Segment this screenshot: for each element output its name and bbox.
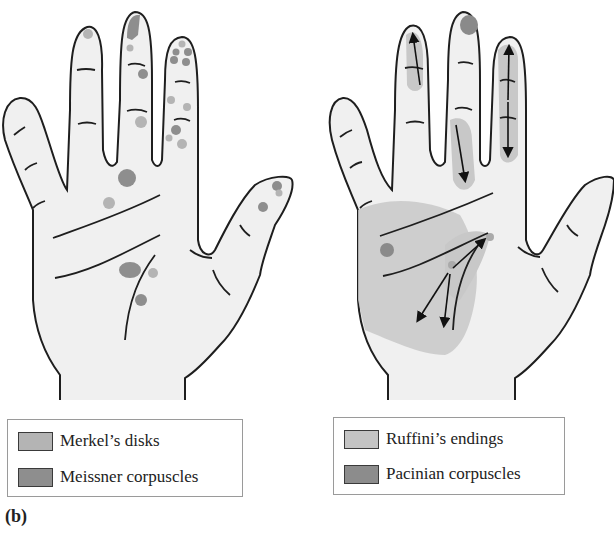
legend-item-meissner: Meissner corpuscles	[18, 467, 198, 487]
legend-item-ruffini: Ruffini’s endings	[344, 429, 503, 449]
hand-diagram-ruffini-pacinian	[310, 0, 614, 400]
legend-label: Pacinian corpuscles	[386, 464, 521, 484]
legend-item-merkel: Merkel’s disks	[18, 431, 160, 451]
legend-label: Merkel’s disks	[60, 431, 160, 451]
merkel-swatch-icon	[18, 432, 53, 451]
legend-item-pacinian: Pacinian corpuscles	[344, 464, 521, 484]
pacinian-swatch-icon	[344, 465, 379, 484]
legend-label: Ruffini’s endings	[386, 429, 503, 449]
ruffini-swatch-icon	[344, 430, 379, 449]
legend-ruffini-pacinian: Ruffini’s endings Pacinian corpuscles	[333, 417, 565, 495]
hand-outline	[3, 12, 292, 400]
panel-label: (b)	[5, 506, 27, 527]
meissner-swatch-icon	[18, 468, 53, 487]
hand-diagram-merkel-meissner	[0, 0, 310, 400]
legend-label: Meissner corpuscles	[60, 467, 198, 487]
legend-merkel-meissner: Merkel’s disks Meissner corpuscles	[7, 419, 243, 497]
